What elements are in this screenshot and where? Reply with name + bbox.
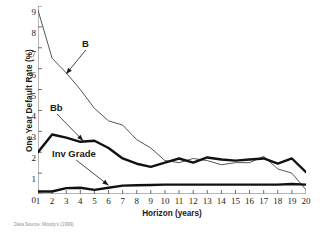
y-axis-tick-label: 3 [22,132,36,142]
x-axis-tick-labels: 1234567891011121314151617181920 [38,196,306,210]
chart-canvas [38,6,306,194]
series-line-b [38,10,306,190]
source-note: Data Source: Moody's (1999) [14,222,74,227]
y-axis-tick-label: 8 [22,28,36,38]
annotation-leader-line [76,160,108,185]
series-line-inv-grade [38,184,306,192]
annotation-arrowhead [66,68,72,74]
x-axis-tick-label: 20 [297,196,315,206]
series-label-inv-grade: Inv Grade [52,148,96,159]
y-axis-tick-label: 6 [22,70,36,80]
y-axis-tick-label: 5 [22,91,36,101]
y-axis-tick-label: 2 [22,153,36,163]
annotation-arrowhead [102,180,108,186]
series-label-bb: Bb [50,102,63,113]
y-axis-tick-label: 4 [22,111,36,121]
chart-figure: One Year Default Rate (%) 0123456789 123… [0,0,322,233]
plot-area [38,6,306,194]
y-axis-tick-labels: 0123456789 [20,6,36,194]
y-axis-tick-label: 9 [22,7,36,17]
axis-lines [38,6,306,194]
y-axis-tick-label: 7 [22,49,36,59]
series-label-b: B [82,38,89,49]
y-axis-tick-label: 1 [22,174,36,184]
x-axis-title: Horizon (years) [38,209,306,218]
